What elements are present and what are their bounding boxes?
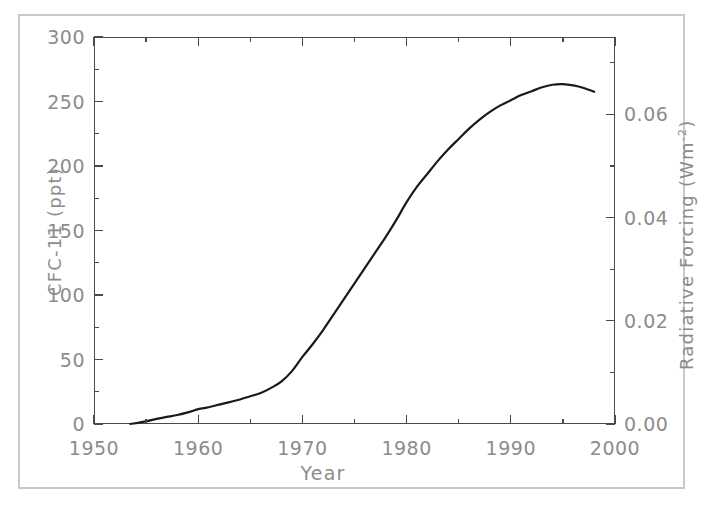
axis-tick	[94, 359, 103, 360]
axis-tick	[94, 101, 103, 102]
axis-tick	[610, 372, 615, 373]
axis-tick	[198, 415, 199, 424]
y-right-tick-label: 0.00	[624, 415, 668, 434]
figure-canvas: 1950196019701980199020000501001502002503…	[0, 0, 702, 514]
axis-tick	[302, 37, 303, 46]
axis-tick	[610, 269, 615, 270]
axis-tick	[94, 133, 99, 134]
y-left-tick-label: 0	[72, 415, 85, 434]
axis-tick	[94, 165, 103, 166]
axis-tick	[406, 415, 407, 424]
x-tick-label: 1980	[381, 439, 431, 458]
x-tick-label: 1960	[173, 439, 223, 458]
x-tick-label: 1950	[69, 439, 119, 458]
axis-tick	[94, 36, 103, 37]
axis-tick	[610, 62, 615, 63]
axis-tick	[94, 294, 103, 295]
axis-tick	[510, 415, 511, 424]
axis-tick	[354, 37, 355, 42]
axis-tick	[250, 419, 251, 424]
y-left-tick-label: 250	[47, 92, 85, 111]
y-right-tick-label: 0.02	[624, 311, 668, 330]
x-tick-label: 2000	[590, 439, 640, 458]
axis-tick	[94, 391, 99, 392]
axis-tick	[614, 37, 615, 46]
axis-tick	[510, 37, 511, 46]
axis-tick	[94, 198, 99, 199]
axis-tick	[562, 37, 563, 42]
axis-tick	[93, 37, 94, 46]
y-right-title-close: )	[676, 120, 697, 128]
axis-tick	[94, 230, 103, 231]
x-axis-title: Year	[300, 462, 345, 484]
axis-tick	[145, 419, 146, 424]
axis-tick	[250, 37, 251, 42]
y-left-axis-title: CFC-11 (ppt)	[44, 167, 65, 296]
axis-tick	[606, 217, 615, 218]
y-right-tick-label: 0.04	[624, 208, 668, 227]
axis-tick	[94, 262, 99, 263]
axis-tick	[198, 37, 199, 46]
x-tick-label: 1990	[486, 439, 536, 458]
axis-tick	[458, 37, 459, 42]
y-right-title-exponent: -2	[676, 128, 689, 141]
axis-tick	[94, 423, 103, 424]
y-right-tick-label: 0.06	[624, 105, 668, 124]
axis-tick	[606, 320, 615, 321]
axis-tick	[94, 69, 99, 70]
y-right-title-base: Radiative Forcing (Wm	[676, 141, 697, 370]
series-line-cfc11	[130, 84, 594, 424]
axis-tick	[354, 419, 355, 424]
axis-tick	[458, 419, 459, 424]
axis-tick	[302, 415, 303, 424]
y-left-tick-label: 50	[60, 350, 85, 369]
y-right-axis-title: Radiative Forcing (Wm-2)	[676, 120, 697, 370]
x-tick-label: 1970	[277, 439, 327, 458]
axis-tick	[406, 37, 407, 46]
data-curve-layer	[94, 37, 615, 424]
y-left-tick-label: 300	[47, 28, 85, 47]
axis-tick	[145, 37, 146, 42]
axis-tick	[606, 423, 615, 424]
axis-tick	[610, 165, 615, 166]
axis-tick	[606, 114, 615, 115]
axis-tick	[562, 419, 563, 424]
axis-tick	[94, 327, 99, 328]
